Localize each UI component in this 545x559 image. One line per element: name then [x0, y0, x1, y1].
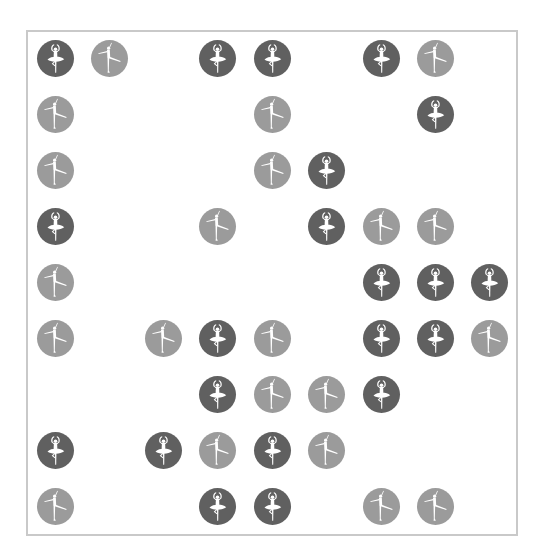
- ballerina-tutu-icon: [199, 320, 236, 357]
- ballerina-tutu-icon: [308, 208, 345, 245]
- dancer-cell-r6-c9[interactable]: [471, 320, 508, 357]
- dancer-cell-r4-c4[interactable]: [199, 208, 236, 245]
- dancer-cell-r1-c1[interactable]: [37, 40, 74, 77]
- dancer-cell-r7-c7[interactable]: [363, 376, 400, 413]
- dancer-cell-r6-c4[interactable]: [199, 320, 236, 357]
- ballerina-tutu-icon: [417, 96, 454, 133]
- ballerina-arabesque-icon: [254, 376, 291, 413]
- ballerina-arabesque-icon: [37, 320, 74, 357]
- dancer-cell-r9-c5[interactable]: [254, 488, 291, 525]
- dancer-cell-r7-c4[interactable]: [199, 376, 236, 413]
- dancer-cell-r6-c3[interactable]: [145, 320, 182, 357]
- dancer-cell-r5-c1[interactable]: [37, 264, 74, 301]
- dancer-cell-r1-c4[interactable]: [199, 40, 236, 77]
- ballerina-tutu-icon: [37, 208, 74, 245]
- dancer-cell-r4-c1[interactable]: [37, 208, 74, 245]
- ballerina-arabesque-icon: [199, 208, 236, 245]
- ballerina-tutu-icon: [471, 264, 508, 301]
- ballerina-arabesque-icon: [417, 208, 454, 245]
- dancer-cell-r5-c9[interactable]: [471, 264, 508, 301]
- dancer-cell-r1-c2[interactable]: [91, 40, 128, 77]
- ballerina-tutu-icon: [37, 432, 74, 469]
- ballerina-tutu-icon: [417, 320, 454, 357]
- ballerina-tutu-icon: [199, 488, 236, 525]
- ballerina-arabesque-icon: [37, 264, 74, 301]
- ballerina-tutu-icon: [254, 432, 291, 469]
- dancer-cell-r3-c6[interactable]: [308, 152, 345, 189]
- dancer-cell-r1-c5[interactable]: [254, 40, 291, 77]
- ballerina-tutu-icon: [363, 376, 400, 413]
- dancer-cell-r9-c1[interactable]: [37, 488, 74, 525]
- ballerina-tutu-icon: [363, 264, 400, 301]
- dancer-cell-r2-c1[interactable]: [37, 96, 74, 133]
- dancer-cell-r4-c7[interactable]: [363, 208, 400, 245]
- ballerina-arabesque-icon: [417, 488, 454, 525]
- ballerina-arabesque-icon: [363, 488, 400, 525]
- dancer-cell-r6-c1[interactable]: [37, 320, 74, 357]
- ballerina-arabesque-icon: [37, 152, 74, 189]
- ballerina-arabesque-icon: [254, 152, 291, 189]
- dancer-cell-r3-c1[interactable]: [37, 152, 74, 189]
- dancer-cell-r8-c3[interactable]: [145, 432, 182, 469]
- ballerina-arabesque-icon: [471, 320, 508, 357]
- dancer-cell-r1-c7[interactable]: [363, 40, 400, 77]
- dancer-cell-r3-c5[interactable]: [254, 152, 291, 189]
- ballerina-arabesque-icon: [37, 96, 74, 133]
- ballerina-tutu-icon: [254, 40, 291, 77]
- ballerina-tutu-icon: [199, 40, 236, 77]
- dancer-cell-r9-c4[interactable]: [199, 488, 236, 525]
- dancer-cell-r5-c7[interactable]: [363, 264, 400, 301]
- ballerina-arabesque-icon: [37, 488, 74, 525]
- dancer-cell-r2-c8[interactable]: [417, 96, 454, 133]
- ballerina-arabesque-icon: [145, 320, 182, 357]
- ballerina-arabesque-icon: [254, 96, 291, 133]
- ballerina-arabesque-icon: [308, 432, 345, 469]
- ballerina-arabesque-icon: [363, 208, 400, 245]
- ballerina-arabesque-icon: [91, 40, 128, 77]
- ballerina-tutu-icon: [363, 320, 400, 357]
- ballerina-arabesque-icon: [199, 432, 236, 469]
- dancer-cell-r2-c5[interactable]: [254, 96, 291, 133]
- dancer-cell-r8-c1[interactable]: [37, 432, 74, 469]
- dancer-cell-r6-c7[interactable]: [363, 320, 400, 357]
- ballerina-tutu-icon: [417, 264, 454, 301]
- dancer-cell-r6-c8[interactable]: [417, 320, 454, 357]
- ballerina-arabesque-icon: [417, 40, 454, 77]
- ballerina-tutu-icon: [363, 40, 400, 77]
- dancer-cell-r8-c4[interactable]: [199, 432, 236, 469]
- dancer-cell-r1-c8[interactable]: [417, 40, 454, 77]
- dancer-cell-r8-c6[interactable]: [308, 432, 345, 469]
- ballerina-arabesque-icon: [254, 320, 291, 357]
- dancer-cell-r4-c6[interactable]: [308, 208, 345, 245]
- dancer-cell-r4-c8[interactable]: [417, 208, 454, 245]
- ballerina-tutu-icon: [145, 432, 182, 469]
- dancer-cell-r9-c8[interactable]: [417, 488, 454, 525]
- ballerina-tutu-icon: [199, 376, 236, 413]
- dancer-cell-r9-c7[interactable]: [363, 488, 400, 525]
- ballerina-tutu-icon: [254, 488, 291, 525]
- dancer-cell-r5-c8[interactable]: [417, 264, 454, 301]
- dancer-cell-r6-c5[interactable]: [254, 320, 291, 357]
- dancer-cell-r7-c5[interactable]: [254, 376, 291, 413]
- ballerina-tutu-icon: [37, 40, 74, 77]
- ballerina-tutu-icon: [308, 152, 345, 189]
- ballerina-arabesque-icon: [308, 376, 345, 413]
- dancer-cell-r8-c5[interactable]: [254, 432, 291, 469]
- dancer-cell-r7-c6[interactable]: [308, 376, 345, 413]
